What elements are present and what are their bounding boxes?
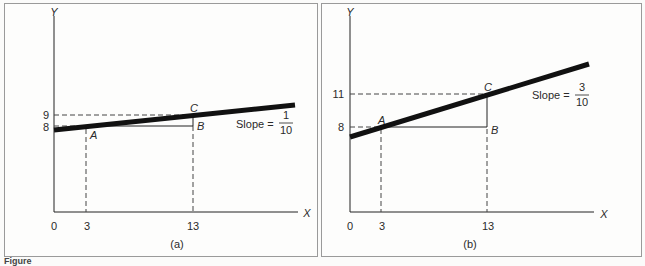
point-b: B — [197, 120, 204, 132]
figure-caption-fragment: Figure — [4, 256, 32, 266]
slope-denominator: 10 — [576, 96, 588, 108]
x-tick-0: 0 — [347, 220, 353, 232]
panel-b: Y X 0 3 13 11 8 A B C Slope = 3 10 (b) — [321, 3, 642, 257]
y-tick-11: 11 — [333, 88, 344, 100]
slope-denominator: 10 — [280, 124, 292, 136]
slope-label: Slope = — [532, 89, 570, 101]
point-b: B — [491, 124, 498, 136]
slope-label: Slope = — [236, 118, 274, 130]
slope-numerator: 1 — [283, 109, 289, 121]
point-c: C — [190, 102, 198, 114]
x-axis-label: X — [302, 207, 311, 219]
x-tick-0: 0 — [51, 220, 57, 232]
x-tick-13: 13 — [482, 220, 494, 232]
point-a: A — [377, 114, 385, 126]
panel-a: Y X 0 3 13 9 8 A B C Slope = 1 10 (a) — [4, 3, 318, 257]
y-tick-9: 9 — [43, 109, 49, 121]
point-a: A — [89, 129, 97, 141]
y-tick-8: 8 — [43, 121, 49, 133]
x-axis-label: X — [599, 208, 608, 220]
graph-a: Y X 0 3 13 9 8 A B C Slope = 1 10 (a) — [5, 4, 317, 256]
y-axis-label: Y — [50, 6, 58, 18]
x-tick-3: 3 — [379, 220, 385, 232]
y-axis-label: Y — [346, 6, 354, 18]
x-tick-13: 13 — [187, 220, 199, 232]
slope-numerator: 3 — [579, 81, 585, 93]
panel-label: (b) — [463, 238, 476, 250]
x-tick-3: 3 — [84, 220, 90, 232]
panel-label: (a) — [170, 238, 183, 250]
point-c: C — [484, 81, 492, 93]
graph-b: Y X 0 3 13 11 8 A B C Slope = 3 10 (b) — [322, 4, 641, 256]
y-tick-8: 8 — [338, 121, 344, 133]
